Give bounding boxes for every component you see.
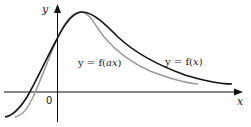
y-axis-label: y [42, 4, 48, 15]
curve-label-f-x-prefix: y = f( [165, 56, 193, 67]
curve-label-f-x-suffix: ) [199, 56, 203, 67]
function-transformation-diagram: y x 0 y = f(ax) y = f(x) [0, 0, 251, 127]
x-axis-label: x [237, 96, 243, 107]
curve-label-f-ax-prefix: y = f( [78, 57, 106, 68]
curve-label-f-ax-suffix: ) [118, 57, 122, 68]
curve-label-f-x: y = f(x) [165, 57, 203, 67]
graph-canvas [0, 0, 251, 127]
curve-label-f-ax: y = f(ax) [78, 58, 122, 68]
origin-label: 0 [46, 96, 52, 106]
y-axis-arrow-icon [54, 4, 61, 13]
curve-label-f-ax-arg: ax [106, 57, 118, 68]
